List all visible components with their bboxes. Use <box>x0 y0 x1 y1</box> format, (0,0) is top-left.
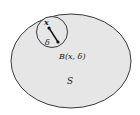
open-ball-diagram: x δ B(x, δ) S <box>0 0 140 115</box>
set-label: S <box>67 76 73 86</box>
set-s-region <box>11 14 131 108</box>
ball-label: B(x, δ) <box>58 52 86 61</box>
radius-label: δ <box>45 38 50 47</box>
center-label: x <box>43 17 49 27</box>
radius-endpoint <box>56 40 59 43</box>
